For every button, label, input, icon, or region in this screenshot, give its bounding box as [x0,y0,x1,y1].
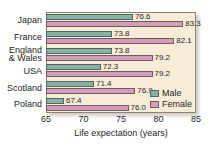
bar-value-label: 72.3 [103,63,119,71]
bar-female [46,105,129,111]
legend-item-female: Female [150,99,194,110]
bar-value-label: 83.3 [185,20,201,28]
bar-value-label: 67.4 [66,97,82,105]
legend-label-male: Male [162,89,182,98]
category-label: France [14,33,42,42]
bar-female [46,38,174,44]
category-axis: JapanFranceEngland& WalesUSAScotlandPola… [0,12,44,113]
category-label: USA [23,67,42,76]
bar-chart: JapanFranceEngland& WalesUSAScotlandPola… [0,0,214,149]
x-axis: 6570758085 [46,114,196,126]
bar-value-label: 71.4 [96,80,112,88]
x-tick-label: 75 [116,114,126,124]
x-tick-label: 65 [41,114,51,124]
chart-legend: Male Female [150,88,194,110]
category-label: Japan [17,16,42,25]
bar-female [46,55,153,61]
bar-female [46,71,153,77]
legend-swatch-male-icon [150,90,159,97]
bar-group: 72.379.2 [46,64,196,77]
legend-item-male: Male [150,88,194,99]
x-tick-label: 70 [78,114,88,124]
bar-male [46,31,112,37]
bar-value-label: 76.0 [131,104,147,112]
bar-male [46,48,112,54]
x-tick-label: 80 [153,114,163,124]
legend-swatch-female-icon [150,101,159,108]
category-label: Scotland [7,84,42,93]
bar-value-label: 79.2 [155,70,171,78]
bar-female [46,88,135,94]
bar-male [46,81,94,87]
bar-value-label: 82.1 [176,37,192,45]
bar-male [46,98,64,104]
x-tick-label: 85 [191,114,201,124]
legend-label-female: Female [162,100,192,109]
bar-group: 73.879.2 [46,48,196,61]
bar-value-label: 76.6 [135,13,151,21]
bar-group: 73.882.1 [46,31,196,44]
bar-value-label: 79.2 [155,54,171,62]
category-label: Poland [14,100,42,109]
bar-group: 76.683.3 [46,14,196,27]
x-axis-title: Life expectation (years) [46,128,196,138]
bar-male [46,14,133,20]
bar-female [46,21,183,27]
bar-value-label: 73.8 [114,47,130,55]
bar-male [46,64,101,70]
category-label: England& Wales [9,46,42,63]
bar-value-label: 73.8 [114,30,130,38]
